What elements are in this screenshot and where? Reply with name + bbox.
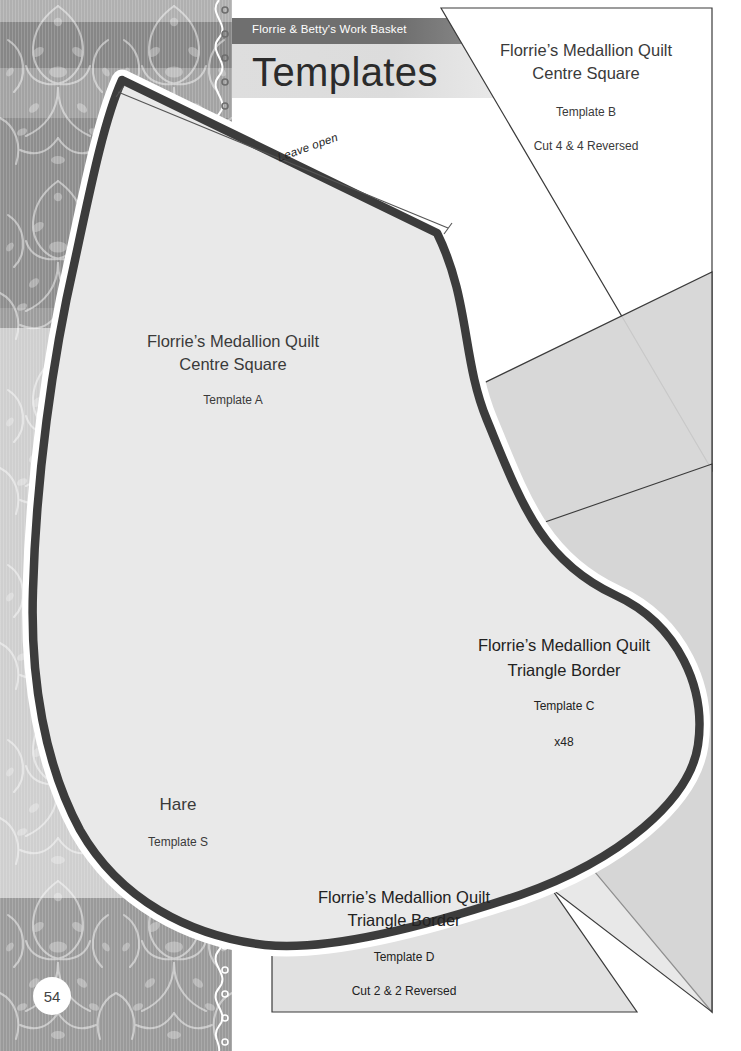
template-b-quantity: Cut 4 & 4 Reversed bbox=[534, 139, 639, 153]
template-b-quilt-name: Florrie’s Medallion Quilt bbox=[500, 41, 672, 60]
template-s-quilt-name: Hare bbox=[160, 795, 197, 815]
template-s-label: Template S bbox=[148, 835, 208, 849]
template-a-quilt-name: Florrie’s Medallion Quilt bbox=[147, 332, 319, 351]
page-number: 54 bbox=[33, 977, 71, 1015]
template-d-part-name: Triangle Border bbox=[347, 911, 460, 930]
template-d-label: Template D bbox=[374, 950, 435, 964]
template-b-part-name: Centre Square bbox=[532, 64, 639, 83]
template-d-quilt-name: Florrie’s Medallion Quilt bbox=[318, 888, 490, 907]
page-canvas: Florrie & Betty's Work Basket Templates bbox=[0, 0, 741, 1051]
template-b-label: Template B bbox=[556, 105, 616, 119]
template-c-label: Template C bbox=[534, 699, 595, 713]
template-c-quantity: x48 bbox=[554, 735, 573, 749]
template-c-quilt-name: Florrie’s Medallion Quilt bbox=[478, 636, 650, 655]
template-a-label: Template A bbox=[203, 393, 262, 407]
template-a-part-name: Centre Square bbox=[179, 355, 286, 374]
template-d-quantity: Cut 2 & 2 Reversed bbox=[352, 984, 457, 998]
template-c-part-name: Triangle Border bbox=[507, 661, 620, 680]
